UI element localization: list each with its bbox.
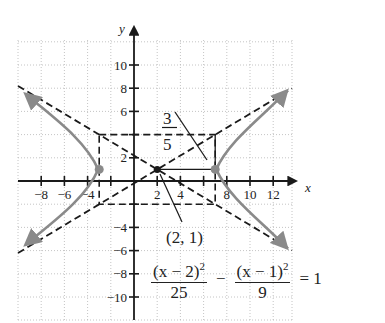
svg-text:−6: −6 [57,187,71,202]
svg-text:4: 4 [177,187,184,202]
term1-numerator: (x − 2) [153,262,199,281]
svg-text:10: 10 [244,187,257,202]
svg-text:−10: −10 [107,290,127,305]
vertex-right [211,165,220,174]
svg-text:−8: −8 [34,187,48,202]
term2-denominator: 9 [258,283,267,303]
term2-numerator: (x − 1) [237,262,283,281]
svg-text:8: 8 [121,81,128,96]
hyperbola-equation: (x − 2)2 25 − (x − 1)2 9 = 1 [148,256,328,303]
svg-text:12: 12 [267,187,280,202]
svg-text:6: 6 [121,104,128,119]
y-axis-label: y [117,21,125,36]
x-axis-label: x [304,180,311,195]
term1-fraction: (x − 2)2 25 [151,256,207,303]
slope-denominator: 5 [163,135,172,154]
minus-operator: − [216,269,226,289]
vertex-left [95,165,104,174]
term1-exponent: 2 [199,260,205,272]
x-tick-labels: −8 −6 −4 2 4 8 10 12 [34,187,279,202]
term1-denominator: 25 [170,283,187,303]
term2-exponent: 2 [283,260,289,272]
svg-text:−8: −8 [113,266,127,281]
center-point [154,166,161,173]
svg-text:−4: −4 [113,220,127,235]
slope-numerator: 3 [163,109,172,128]
svg-text:10: 10 [114,58,127,73]
svg-text:2: 2 [154,187,161,202]
svg-text:−6: −6 [113,243,127,258]
svg-text:2: 2 [121,150,128,165]
center-label: (2, 1) [166,228,203,247]
equals-one: = 1 [299,269,321,289]
term2-fraction: (x − 1)2 9 [235,256,291,303]
